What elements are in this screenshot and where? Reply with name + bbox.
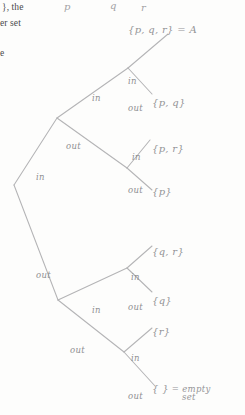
edge-label-out-root: out — [36, 270, 51, 280]
tree-edge-2 — [128, 34, 168, 68]
root-node-label: {p, q, r} = A — [128, 24, 197, 35]
tree-edge-7 — [14, 185, 58, 300]
leaf-label-p: {p} — [152, 186, 172, 197]
edge-label-out-level4: out — [128, 302, 143, 312]
edge-label-out-level1: out — [128, 103, 143, 113]
tree-edge-9 — [127, 246, 152, 268]
edge-label-out-level2: out — [66, 141, 81, 151]
root-equals-text: = A — [177, 24, 197, 35]
edge-label-out-level5: out — [70, 345, 85, 355]
leaf-label-empty-set: { } — [152, 383, 169, 394]
leaf-label-empty-set-group: { } = empty set — [152, 383, 211, 402]
printed-text-fragment-3: e — [0, 48, 4, 58]
root-set-text: {p, q, r} — [128, 24, 174, 35]
column-header-p: p — [64, 1, 71, 12]
handwritten-subset-tree-page: }, the er set e p q r {p, q, r} = A in o… — [0, 0, 245, 415]
edge-label-in-level5: in — [92, 305, 101, 315]
tree-edge-8 — [58, 268, 127, 300]
tree-edge-11 — [58, 300, 124, 352]
printed-text-fragment-1: }, the — [2, 2, 24, 12]
edge-label-in-level3: in — [132, 152, 141, 162]
column-header-q: q — [110, 0, 117, 11]
edge-label-in-level2: in — [92, 93, 101, 103]
edge-label-out-level6: out — [128, 391, 143, 401]
leaf-label-pq: {p, q} — [152, 97, 186, 108]
printed-text-fragment-2: er set — [0, 18, 21, 28]
leaf-label-r: {r} — [152, 326, 170, 337]
edge-label-in-level6: in — [131, 353, 140, 363]
column-header-r: r — [141, 2, 146, 13]
leaf-label-qr: {q, r} — [152, 246, 184, 257]
tree-edges-drawing — [0, 0, 245, 415]
tree-edge-12 — [124, 328, 152, 352]
edge-label-in-level4: in — [131, 272, 140, 282]
leaf-label-q: {q} — [152, 295, 172, 306]
edge-label-in-level1: in — [128, 76, 137, 86]
leaf-label-pr: {p, r} — [152, 143, 184, 154]
edge-label-out-level3: out — [128, 185, 143, 195]
edge-label-in-root: in — [36, 172, 45, 182]
